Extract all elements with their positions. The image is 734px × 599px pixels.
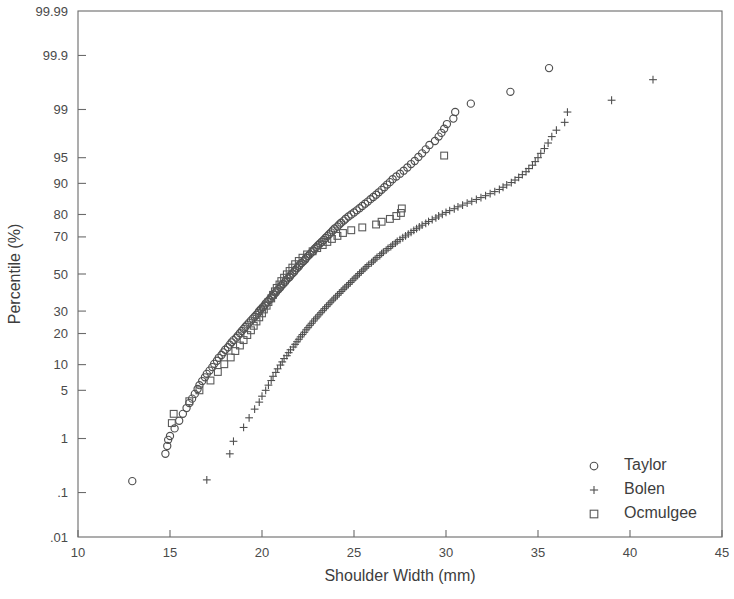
data-point-plus: [428, 216, 436, 224]
legend-label-bolen: Bolen: [624, 480, 665, 497]
data-point-plus: [472, 196, 480, 204]
y-tick-label: 99.99: [35, 4, 68, 19]
data-point-square: [227, 354, 234, 361]
data-point-plus: [350, 275, 358, 283]
data-point-plus: [608, 96, 616, 104]
data-point-plus: [361, 264, 369, 272]
data-point-plus: [352, 273, 360, 281]
data-point-plus: [240, 424, 248, 432]
data-point-square: [441, 152, 448, 159]
data-point-plus: [450, 205, 458, 213]
plot-canvas: 1015202530354045 99.9999.999959080705030…: [0, 0, 734, 599]
data-point-plus: [335, 289, 343, 297]
y-tick-label: .01: [50, 530, 68, 545]
data-point-plus: [348, 277, 356, 285]
data-point-plus: [548, 133, 556, 141]
y-tick-label: 20: [54, 326, 68, 341]
data-point-plus: [317, 309, 325, 317]
data-point-plus: [346, 279, 354, 287]
data-point-circle: [129, 478, 136, 485]
x-axis-ticks: 1015202530354045: [71, 530, 729, 560]
x-tick-label: 40: [623, 545, 637, 560]
data-point-plus: [486, 190, 494, 198]
series-ocmulgee: [168, 152, 447, 426]
y-tick-label: 5: [61, 383, 68, 398]
data-point-plus: [326, 299, 334, 307]
data-point-plus: [203, 476, 211, 484]
data-point-plus: [561, 118, 569, 126]
y-tick-label: 50: [54, 267, 68, 282]
y-tick-label: 99.9: [43, 48, 68, 63]
data-point-plus: [446, 207, 454, 215]
y-tick-label: 30: [54, 304, 68, 319]
data-point-plus: [357, 268, 365, 276]
data-point-plus: [463, 199, 471, 207]
data-point-plus: [371, 255, 379, 263]
data-point-square: [221, 361, 228, 368]
y-tick-label: 10: [54, 357, 68, 372]
y-tick-label: .1: [57, 485, 68, 500]
data-point-square: [359, 224, 366, 231]
data-point-square: [590, 510, 598, 518]
data-point-circle: [162, 450, 169, 457]
y-tick-label: 70: [54, 229, 68, 244]
legend-label-taylor: Taylor: [624, 456, 667, 473]
y-tick-label: 90: [54, 176, 68, 191]
data-point-circle: [545, 65, 552, 72]
x-tick-label: 25: [347, 545, 361, 560]
data-point-plus: [315, 311, 323, 319]
data-point-plus: [482, 192, 490, 200]
data-point-circle: [336, 221, 343, 228]
data-point-plus: [468, 197, 476, 205]
data-point-plus: [330, 295, 338, 303]
data-point-plus: [324, 301, 332, 309]
data-point-plus: [321, 305, 329, 313]
data-point-plus: [319, 307, 327, 315]
x-tick-label: 30: [439, 545, 453, 560]
x-tick-label: 15: [163, 545, 177, 560]
data-point-plus: [459, 201, 467, 209]
data-series-layer: [129, 65, 657, 485]
data-point-plus: [544, 139, 552, 147]
data-point-plus: [226, 450, 234, 458]
data-point-plus: [341, 284, 349, 292]
data-point-plus: [363, 262, 371, 270]
data-point-plus: [337, 288, 345, 296]
series-bolen: [203, 76, 657, 484]
data-point-plus: [339, 286, 347, 294]
data-point-plus: [649, 76, 657, 84]
data-point-plus: [323, 303, 331, 311]
data-point-plus: [345, 280, 353, 288]
data-point-square: [386, 216, 393, 223]
data-point-plus: [369, 257, 377, 265]
y-axis-title: Percentile (%): [6, 224, 23, 324]
data-point-plus: [564, 108, 572, 116]
x-tick-label: 20: [255, 545, 269, 560]
data-point-square: [170, 410, 177, 417]
data-point-plus: [359, 266, 367, 274]
data-point-plus: [590, 486, 598, 494]
data-point-circle: [467, 100, 474, 107]
data-point-plus: [438, 210, 446, 218]
data-point-plus: [343, 282, 351, 290]
legend: TaylorBolenOcmulgee: [590, 456, 697, 521]
data-point-plus: [230, 437, 238, 445]
x-axis-title: Shoulder Width (mm): [324, 567, 475, 584]
data-point-plus: [541, 145, 549, 153]
data-point-plus: [328, 297, 336, 305]
data-point-plus: [313, 313, 321, 321]
series-taylor: [129, 65, 553, 485]
x-tick-label: 10: [71, 545, 85, 560]
y-tick-label: 99: [54, 102, 68, 117]
probability-plot-figure: 1015202530354045 99.9999.999959080705030…: [0, 0, 734, 599]
data-point-circle: [176, 417, 183, 424]
data-point-plus: [334, 291, 342, 299]
data-point-plus: [356, 270, 364, 278]
data-point-circle: [452, 108, 459, 115]
x-tick-label: 45: [715, 545, 729, 560]
data-point-circle: [590, 462, 598, 470]
data-point-plus: [491, 188, 499, 196]
data-point-square: [348, 227, 355, 234]
y-tick-label: 80: [54, 207, 68, 222]
y-tick-label: 95: [54, 150, 68, 165]
